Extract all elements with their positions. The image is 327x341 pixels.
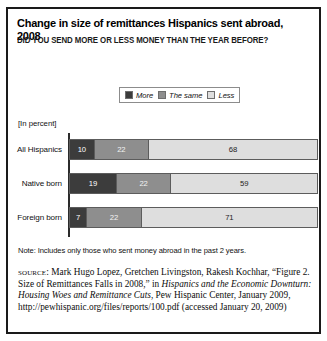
chart-row-label: Foreign born: [8, 207, 62, 228]
chart-row-label: Native born: [8, 173, 62, 194]
figure-inner: Change in size of remittances Hispanics …: [8, 9, 319, 332]
chart-row: All Hispanics102268: [8, 139, 319, 160]
chart-note: Note: Includes only those who sent money…: [18, 246, 314, 256]
figure-frame: Change in size of remittances Hispanics …: [6, 7, 321, 334]
chart-segment: 19: [70, 174, 117, 193]
page-subtitle: DID YOU SEND MORE OR LESS MONEY THAN THE…: [17, 35, 302, 45]
chart-segment: 10: [70, 140, 95, 159]
chart-rows: All Hispanics102268Native born192259Fore…: [8, 133, 319, 237]
chart-segment: 68: [149, 140, 317, 159]
chart-segment: 22: [95, 140, 149, 159]
chart-source: source: Mark Hugo Lopez, Gretchen Living…: [18, 266, 315, 313]
chart-row: Foreign born72271: [8, 207, 319, 228]
chart-bar: 192259: [69, 173, 318, 194]
chart-segment-value: 7: [76, 214, 80, 222]
chart-plot-area: All Hispanics102268Native born192259Fore…: [8, 133, 319, 237]
chart-segment-value: 68: [229, 146, 237, 154]
chart-bar: 102268: [69, 139, 318, 160]
legend-label-less: Less: [218, 91, 234, 100]
figure-root: Change in size of remittances Hispanics …: [0, 0, 327, 341]
legend-swatch-less: [207, 91, 215, 99]
chart-legend: More The same Less: [119, 87, 240, 103]
chart-segment-value: 10: [78, 146, 86, 154]
legend-item-more: More: [125, 91, 153, 100]
chart-segment: 22: [117, 174, 171, 193]
chart-bar: 72271: [69, 207, 318, 228]
chart-segment-value: 71: [225, 214, 233, 222]
chart-segment-value: 22: [117, 146, 125, 154]
chart-segment-value: 19: [89, 180, 97, 188]
chart-segment-value: 22: [110, 214, 118, 222]
legend-swatch-more: [125, 91, 133, 99]
chart-segment: 22: [87, 208, 141, 227]
chart-row: Native born192259: [8, 173, 319, 194]
chart-segment-value: 22: [139, 180, 147, 188]
source-lead: source:: [18, 266, 49, 277]
chart-segment-value: 59: [240, 180, 248, 188]
units-label: [In percent]: [18, 119, 56, 128]
legend-label-more: More: [136, 91, 153, 100]
chart-segment: 7: [70, 208, 87, 227]
legend-item-less: Less: [207, 91, 234, 100]
legend-label-the-same: The same: [169, 91, 202, 100]
legend-swatch-the-same: [158, 91, 166, 99]
chart-segment: 71: [142, 208, 317, 227]
chart-row-label: All Hispanics: [8, 139, 62, 160]
legend-item-the-same: The same: [158, 91, 202, 100]
chart-segment: 59: [171, 174, 317, 193]
